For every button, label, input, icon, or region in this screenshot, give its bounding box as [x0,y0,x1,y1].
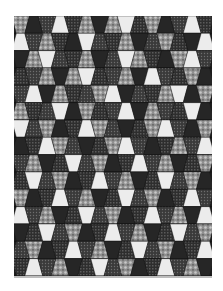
quilt-shadow [14,276,212,278]
quilt-image [14,16,212,276]
quilt-svg [14,16,212,276]
